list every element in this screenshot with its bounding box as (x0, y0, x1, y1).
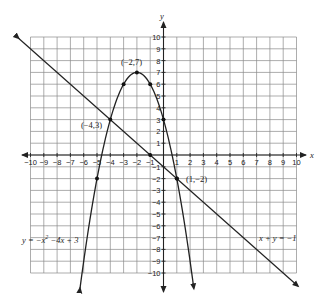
x-tick-label: −10 (24, 158, 37, 167)
intersection-right-label: (1,−2) (186, 174, 207, 184)
y-tick-label: −8 (152, 245, 161, 254)
y-tick-label: −2 (152, 175, 161, 184)
x-tick-label: −4 (106, 158, 115, 167)
line-equation-label: x + y = −1 (258, 233, 297, 243)
x-axis-label: x (309, 150, 314, 160)
x-tick-label: 2 (188, 158, 192, 167)
x-tick-label: 8 (268, 158, 272, 167)
x-tick-label: −3 (119, 158, 128, 167)
y-tick-label: −9 (152, 257, 161, 266)
y-axis-label: y (159, 11, 164, 21)
y-tick-label: 7 (156, 68, 160, 77)
y-tick-label: 9 (156, 45, 160, 54)
vertex-label: (−2,7) (121, 57, 142, 67)
data-point (175, 177, 179, 181)
x-tick-label: −9 (40, 158, 49, 167)
x-tick-label: 9 (281, 158, 285, 167)
x-tick-label: −7 (66, 158, 75, 167)
y-tick-label: 1 (156, 139, 160, 148)
y-tick-label: 2 (156, 127, 160, 136)
data-point (135, 70, 139, 74)
y-tick-label: −7 (152, 234, 161, 243)
y-tick-label: 10 (152, 33, 160, 42)
x-tick-label: 6 (241, 158, 245, 167)
y-tick-label: −3 (152, 186, 161, 195)
x-tick-label: −8 (53, 158, 62, 167)
x-tick-label: 3 (201, 158, 205, 167)
y-tick-label: −5 (152, 210, 161, 219)
intersection-left-label: (−4,3) (81, 120, 102, 130)
x-tick-label: 10 (292, 158, 300, 167)
x-tick-label: −6 (79, 158, 88, 167)
x-tick-label: 1 (175, 158, 179, 167)
y-tick-label: −10 (148, 269, 161, 278)
data-point (162, 118, 166, 122)
data-point (148, 153, 152, 157)
x-tick-label: 5 (228, 158, 232, 167)
y-tick-label: −4 (152, 198, 161, 207)
data-point (148, 82, 152, 86)
axes (22, 22, 306, 292)
coordinate-plane-graph: −10−9−8−7−6−5−4−3−2−11234567891010987654… (0, 0, 331, 304)
y-tick-label: 8 (156, 57, 160, 66)
x-tick-label: 4 (215, 158, 219, 167)
y-tick-label: −1 (152, 163, 161, 172)
x-tick-label: 7 (255, 158, 259, 167)
y-tick-label: −6 (152, 222, 161, 231)
y-tick-label: 3 (156, 116, 160, 125)
y-tick-label: 6 (156, 80, 160, 89)
data-point (95, 177, 99, 181)
data-point (122, 82, 126, 86)
data-point (108, 118, 112, 122)
x-tick-label: −2 (133, 158, 142, 167)
parabola-equation-label: y = −x2 −4x + 3 (21, 234, 78, 245)
